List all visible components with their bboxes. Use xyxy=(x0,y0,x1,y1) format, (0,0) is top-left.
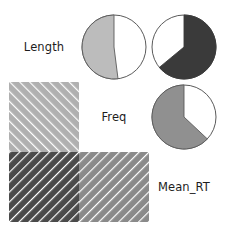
pie-svg-length-meanrt xyxy=(149,12,219,82)
square-fill xyxy=(9,82,79,152)
square-fill xyxy=(9,152,79,222)
square-fill xyxy=(79,152,149,222)
pie-svg-length-freq xyxy=(79,12,149,82)
pie-chart-freq-meanrt xyxy=(149,82,219,152)
pie-cell-length-meanrt xyxy=(149,12,219,82)
diagonal-cell-meanrt: Mean_RT xyxy=(149,152,219,222)
pie-cell-freq-meanrt xyxy=(149,82,219,152)
square-cell-freq-length xyxy=(9,82,79,152)
hatched-square-freq-length xyxy=(9,82,79,152)
matrix-grid: Length xyxy=(9,12,219,222)
hatched-square-meanrt-freq xyxy=(79,152,149,222)
pie-chart-length-freq xyxy=(79,12,149,82)
square-svg-meanrt-freq xyxy=(79,152,149,222)
pie-wedge-length-freq xyxy=(82,15,118,79)
pie-svg-freq-meanrt xyxy=(149,82,219,152)
square-cell-meanrt-length xyxy=(9,152,79,222)
variable-label-freq: Freq xyxy=(79,82,149,152)
hatched-square-meanrt-length xyxy=(9,152,79,222)
pie-cell-length-freq xyxy=(79,12,149,82)
square-svg-freq-length xyxy=(9,82,79,152)
diagonal-cell-length: Length xyxy=(9,12,79,82)
variable-label-mean-rt: Mean_RT xyxy=(149,152,219,222)
correlation-matrix-plot: Length xyxy=(0,0,228,244)
pie-chart-length-meanrt xyxy=(149,12,219,82)
diagonal-cell-freq: Freq xyxy=(79,82,149,152)
square-svg-meanrt-length xyxy=(9,152,79,222)
square-cell-meanrt-freq xyxy=(79,152,149,222)
variable-label-length: Length xyxy=(9,12,79,82)
